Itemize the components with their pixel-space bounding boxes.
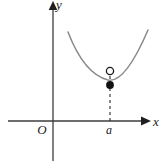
x-axis-arrowhead bbox=[141, 117, 151, 126]
y-axis-label: y bbox=[54, 0, 62, 12]
origin-label: O bbox=[37, 122, 47, 137]
open-circle-point bbox=[106, 67, 113, 74]
coordinate-plane-svg: y x O a bbox=[0, 0, 167, 167]
x-axis-label: x bbox=[152, 114, 159, 129]
filled-dot-point bbox=[106, 81, 114, 89]
x-tick-label-a: a bbox=[106, 123, 112, 137]
graph-figure: y x O a bbox=[0, 0, 167, 167]
